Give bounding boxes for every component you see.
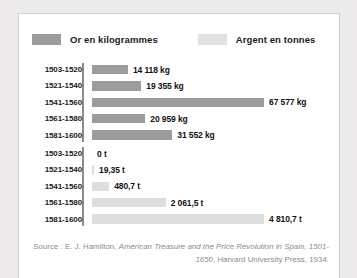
bar-area: 19 355 kg [92,79,339,92]
row-label: 1581-1600 [29,131,82,140]
bar-value: 67 577 kg [269,97,306,107]
bar-value: 20 959 kg [150,114,187,124]
row-label: 1581-1600 [29,215,82,224]
gold-swatch-icon [32,34,61,45]
row-label: 1541-1560 [29,182,82,191]
row-label: 1541-1560 [29,98,82,107]
bar-value: 14 118 kg [133,65,170,75]
table-row: 1503-1520 14 118 kg [29,63,339,76]
table-row: 1503-1520 0 t [29,147,339,160]
row-label: 1503-1520 [29,149,82,158]
bar-value: 19,35 t [99,165,125,175]
row-label: 1503-1520 [29,65,82,74]
chart-legend: Or en kilogrammes Argent en tonnes [19,28,339,50]
bar-value: 19 355 kg [146,81,183,91]
silver-swatch-icon [198,34,227,45]
bar-silver-2 [92,182,109,192]
bar-area: 4 810,7 t [92,213,339,226]
bar-gold-3 [92,114,145,124]
table-row: 1561-1580 2 061,5 t [29,196,339,209]
legend-item-gold: Or en kilogrammes [32,34,158,45]
bar-area: 2 061,5 t [92,196,339,209]
bar-gold-2 [92,98,264,108]
bar-area: 31 552 kg [92,129,339,142]
source-note: Source : E. J. Hamilton, American Treasu… [31,241,329,266]
bar-gold-1 [92,81,141,91]
bar-value: 31 552 kg [177,130,214,140]
source-prefix: Source : E. J. Hamilton, [33,242,118,251]
source-suffix: , Harvard University Press, 1934. [213,255,329,264]
bar-value: 480,7 t [114,181,140,191]
bar-area: 0 t [92,147,339,160]
legend-item-silver: Argent en tonnes [198,34,316,45]
bar-area: 480,7 t [92,180,339,193]
bar-silver-3 [92,198,166,208]
row-label: 1521-1540 [29,165,82,174]
bar-area: 67 577 kg [92,96,339,109]
bar-silver-1 [92,165,94,175]
chart-panel-gold: 1503-1520 14 118 kg 1521-1540 19 355 kg … [19,63,339,145]
bar-value: 4 810,7 t [269,214,302,224]
bar-area: 20 959 kg [92,112,339,125]
table-row: 1581-1600 31 552 kg [29,129,339,142]
bar-gold-0 [92,65,128,75]
table-row: 1561-1580 20 959 kg [29,112,339,125]
chart-panel-silver: 1503-1520 0 t 1521-1540 19,35 t 1541-156… [19,147,339,229]
chart-card: Or en kilogrammes Argent en tonnes 1503-… [18,13,340,278]
row-label: 1521-1540 [29,81,82,90]
table-row: 1581-1600 4 810,7 t [29,213,339,226]
bar-area: 14 118 kg [92,63,339,76]
bar-rows-silver: 1503-1520 0 t 1521-1540 19,35 t 1541-156… [19,147,339,226]
bar-value: 0 t [97,149,107,159]
legend-label-gold: Or en kilogrammes [70,34,158,45]
row-label: 1561-1580 [29,198,82,207]
bar-gold-4 [92,130,172,140]
table-row: 1541-1560 67 577 kg [29,96,339,109]
table-row: 1521-1540 19,35 t [29,163,339,176]
row-label: 1561-1580 [29,114,82,123]
bar-value: 2 061,5 t [171,198,204,208]
table-row: 1541-1560 480,7 t [29,180,339,193]
bar-area: 19,35 t [92,163,339,176]
bar-rows-gold: 1503-1520 14 118 kg 1521-1540 19 355 kg … [19,63,339,142]
table-row: 1521-1540 19 355 kg [29,79,339,92]
legend-label-silver: Argent en tonnes [236,34,316,45]
bar-silver-4 [92,214,264,224]
